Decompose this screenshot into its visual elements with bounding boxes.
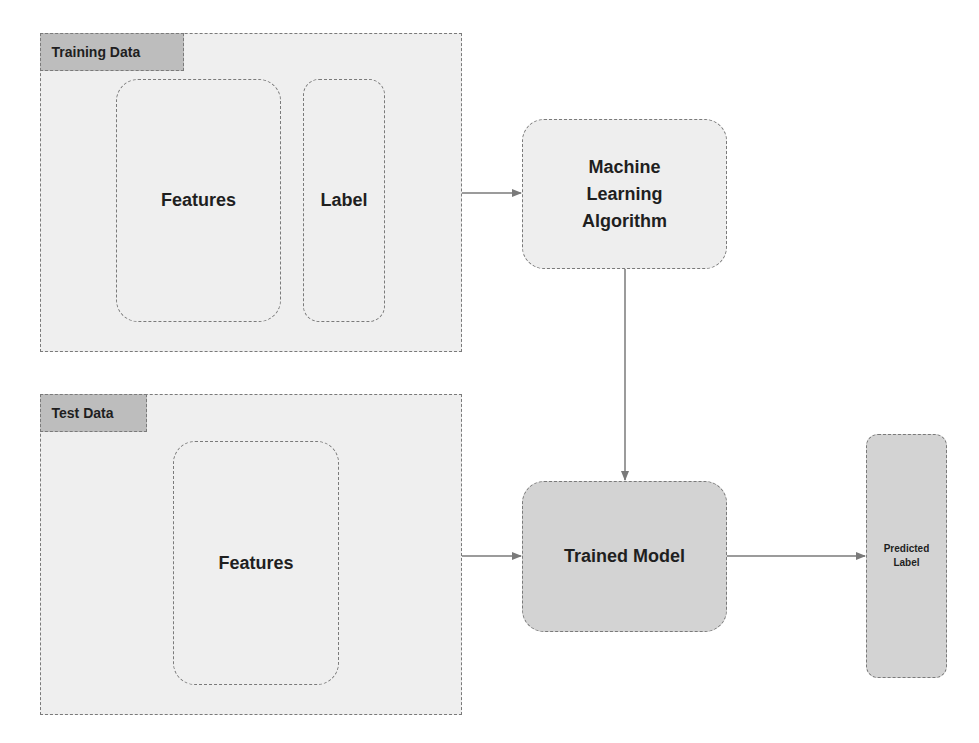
ml-algorithm-node: Machine Learning Algorithm (522, 119, 727, 269)
test-features-box: Features (173, 441, 339, 685)
training-label-label: Label (320, 190, 367, 211)
training-features-box: Features (116, 79, 281, 322)
test-data-title-tab: Test Data (40, 394, 147, 432)
ml-algorithm-line2: Learning (586, 181, 662, 208)
predicted-label-line2: Label (893, 556, 919, 570)
predicted-label-node: Predicted Label (866, 434, 947, 678)
training-features-label: Features (161, 190, 236, 211)
ml-algorithm-line3: Algorithm (582, 208, 667, 235)
trained-model-label: Trained Model (564, 546, 685, 567)
trained-model-node: Trained Model (522, 481, 727, 632)
predicted-label-line1: Predicted (884, 542, 930, 556)
training-label-box: Label (303, 79, 385, 322)
training-data-title: Training Data (52, 44, 141, 60)
training-data-panel: Training Data Features Label (40, 33, 462, 352)
test-data-title: Test Data (52, 405, 114, 421)
ml-algorithm-line1: Machine (588, 154, 660, 181)
training-data-title-tab: Training Data (40, 33, 184, 71)
test-data-panel: Test Data Features (40, 394, 462, 715)
test-features-label: Features (218, 553, 293, 574)
